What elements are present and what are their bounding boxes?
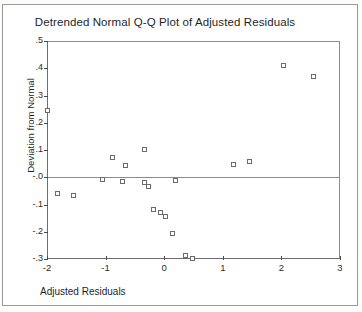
y-tick-mark — [44, 150, 48, 151]
x-tick-label: 1 — [211, 263, 235, 273]
x-tick-label: 3 — [328, 263, 352, 273]
x-tick-mark — [281, 256, 282, 260]
y-tick-label: .1 — [5, 145, 43, 154]
data-point — [173, 178, 178, 183]
y-tick-label: .3 — [5, 91, 43, 100]
x-tick-label: -2 — [35, 263, 59, 273]
y-tick-label: -.0 — [5, 172, 43, 181]
data-point — [183, 253, 188, 258]
y-tick-label: .5 — [5, 36, 43, 45]
zero-reference-line — [47, 177, 340, 178]
y-tick-mark — [44, 177, 48, 178]
x-tick-label: -1 — [94, 263, 118, 273]
data-point — [55, 191, 60, 196]
data-point — [146, 184, 151, 189]
data-point — [247, 159, 252, 164]
data-point — [71, 193, 76, 198]
data-point — [120, 179, 125, 184]
data-point — [281, 63, 286, 68]
y-tick-mark — [44, 123, 48, 124]
plot-area — [47, 41, 340, 259]
y-tick-mark — [44, 96, 48, 97]
data-point — [170, 231, 175, 236]
data-point — [100, 177, 105, 182]
data-point — [123, 163, 128, 168]
data-point — [231, 162, 236, 167]
x-axis-label: Adjusted Residuals — [40, 286, 126, 297]
y-tick-mark — [44, 68, 48, 69]
y-tick-label: -.3 — [5, 254, 43, 263]
y-tick-mark — [44, 232, 48, 233]
x-tick-label: 2 — [269, 263, 293, 273]
y-tick-label: -.1 — [5, 200, 43, 209]
chart-title: Detrended Normal Q-Q Plot of Adjusted Re… — [0, 16, 330, 28]
y-tick-mark — [44, 41, 48, 42]
data-point — [190, 256, 195, 261]
y-tick-label: .4 — [5, 63, 43, 72]
data-point — [311, 74, 316, 79]
x-tick-mark — [340, 256, 341, 260]
data-point — [110, 155, 115, 160]
data-point — [45, 108, 50, 113]
y-tick-label: .2 — [5, 118, 43, 127]
screenshot-page: Detrended Normal Q-Q Plot of Adjusted Re… — [0, 0, 362, 312]
data-point — [163, 214, 168, 219]
y-tick-mark — [44, 259, 48, 260]
data-point — [151, 207, 156, 212]
x-tick-label: 0 — [152, 263, 176, 273]
x-tick-mark — [223, 256, 224, 260]
data-point — [142, 147, 147, 152]
y-tick-mark — [44, 205, 48, 206]
x-tick-mark — [164, 256, 165, 260]
x-tick-mark — [106, 256, 107, 260]
y-tick-label: -.2 — [5, 227, 43, 236]
